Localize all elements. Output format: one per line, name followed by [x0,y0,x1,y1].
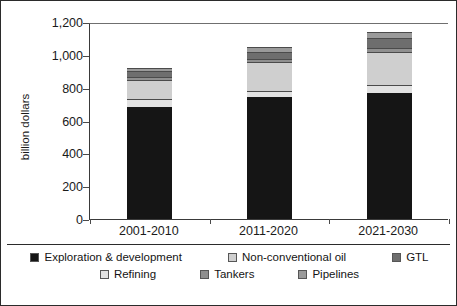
chart-legend: Exploration & developmentNon-conventiona… [1,251,457,280]
bar-segment [247,62,292,91]
legend-item[interactable]: Refining [100,268,156,280]
bar-segment [367,93,412,219]
legend-item[interactable]: Exploration & development [30,251,181,263]
legend-item-label: Exploration & development [44,251,181,263]
legend-item-label: GTL [406,251,428,263]
legend-item[interactable]: Tankers [200,268,254,280]
legend-item[interactable]: Pipelines [298,268,359,280]
bar-stack [367,32,412,219]
bar-segment [247,52,292,59]
bar-segment [127,99,172,107]
legend-row-2: RefiningTankersPipelines [1,268,457,280]
y-axis-tick-label: 400 [62,147,83,161]
legend-swatch-icon [30,253,39,262]
y-axis-tick-label: 800 [62,82,83,96]
x-axis-tick-label: 2001-2010 [119,224,179,238]
legend-swatch-icon [200,270,209,279]
legend-item[interactable]: Non-conventional oil [228,251,346,263]
bar-stack [127,68,172,219]
legend-row-1: Exploration & developmentNon-conventiona… [1,251,457,263]
bar-segment [367,38,412,49]
legend-item-label: Pipelines [312,268,359,280]
bar-segment [127,107,172,219]
plot-area [89,23,448,220]
y-axis-tick-labels: 02004006008001,0001,200 [29,23,83,220]
y-axis-tick-label: 1,200 [52,16,83,30]
y-axis-tick-label: 1,000 [52,49,83,63]
y-axis-tick-mark [83,220,89,221]
legend-swatch-icon [298,270,307,279]
x-axis-tick-label: 2021-2030 [358,224,418,238]
y-axis-tick-label: 0 [76,213,83,227]
legend-item[interactable]: GTL [392,251,428,263]
legend-item-label: Non-conventional oil [242,251,346,263]
bar-segment [247,97,292,219]
y-axis-tick-label: 600 [62,115,83,129]
bar-stack [247,47,292,219]
bar-segment [367,52,412,86]
chart-figure: billion dollars 02004006008001,0001,200 … [0,0,457,306]
bar-segment [127,80,172,99]
legend-swatch-icon [392,253,401,262]
x-axis-tick-labels: 2001-20102011-20202021-2030 [89,224,448,244]
legend-item-label: Refining [114,268,156,280]
bar-segment [367,85,412,92]
legend-divider [7,244,450,245]
legend-swatch-icon [228,253,237,262]
x-axis-tick-mark [449,219,450,224]
legend-swatch-icon [100,270,109,279]
legend-item-label: Tankers [214,268,254,280]
y-axis-tick-label: 200 [62,180,83,194]
x-axis-tick-label: 2011-2020 [239,224,298,238]
